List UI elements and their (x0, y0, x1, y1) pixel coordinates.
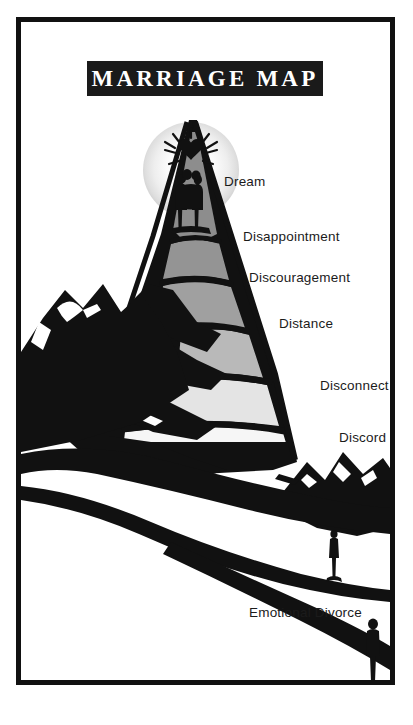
stage-label-emotional-divorce: Emotional Divorce (249, 605, 362, 620)
stage-label-distance: Distance (279, 316, 333, 331)
page-title: MARRIAGE MAP (92, 67, 319, 90)
illustration-canvas (21, 22, 390, 680)
stage-label-disconnect: Disconnect (320, 378, 389, 393)
title-banner: MARRIAGE MAP (87, 61, 323, 96)
lone-figure-upper (326, 530, 342, 582)
stage-label-discouragement: Discouragement (249, 270, 350, 285)
stage-label-dream: Dream (224, 174, 266, 189)
stage-label-disappointment: Disappointment (243, 229, 340, 244)
marriage-map-poster: MARRIAGE MAP Dream Disappointment Discou… (0, 0, 413, 725)
lone-figure-lower (366, 619, 380, 680)
stage-label-discord: Discord (339, 430, 386, 445)
